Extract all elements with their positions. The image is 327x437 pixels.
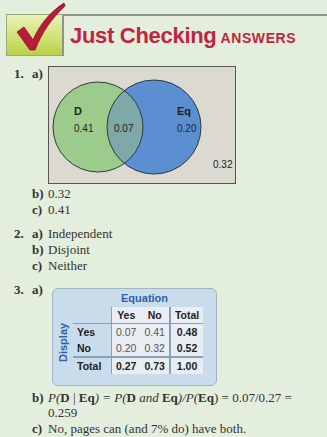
table-row-total: Total 0.27 0.73 1.00 [73,357,203,374]
formula-part: D [127,390,136,405]
question-3-number: 3. [14,282,24,298]
venn-set1-only: 0.41 [74,123,93,134]
formula-part: Eq [162,390,178,405]
question-3c-letter: c) [32,421,42,437]
table-row: No 0.20 0.32 0.52 [73,340,203,357]
question-3b-formula: P(D | Eq) = P(D and Eq)/P(Eq) = 0.07/0.2… [48,390,292,406]
question-2b-answer: Disjoint [48,242,90,258]
question-2-number: 2. [14,226,24,242]
table-cell-total: 0.73 [140,357,169,374]
contingency-table: Yes No Total Yes 0.07 0.41 0.48 No 0.20 … [73,307,203,374]
formula-part: ) = P( [95,390,127,405]
table-cell: 0.41 [140,324,169,341]
table-cell: 0.07 [112,324,141,341]
column-header: No [140,307,169,324]
venn-intersection: 0.07 [114,123,133,134]
table-cell: 0.32 [140,340,169,357]
formula-part: and [136,390,162,405]
formula-part: Eq [79,390,95,405]
question-1b-answer: 0.32 [48,186,71,202]
question-2c-letter: c) [32,258,42,274]
question-2a-letter: a) [32,226,43,242]
table-header-row: Yes No Total [73,307,203,324]
formula-part: Eq [198,390,214,405]
question-3b-result: 0.259 [48,405,77,421]
column-header: Total [170,307,203,324]
venn-set2-only: 0.20 [177,123,196,134]
table-cell-grand-total: 1.00 [170,357,203,374]
table-cell: 0.20 [112,340,141,357]
row-variable-label: Display [57,323,69,362]
table-cell-total: 0.52 [170,340,203,357]
column-header: Yes [112,307,141,324]
formula-part: | [70,390,79,405]
formula-part: ) = 0.07/0.27 = [214,390,292,405]
venn-outside: 0.32 [213,159,232,170]
section-header: Just CheckingANSWERS [0,0,327,62]
question-3c-answer: No, pages can (and 7% do) have both. [48,421,246,437]
row-header: Total [73,357,112,374]
venn-diagram: D 0.41 0.07 Eq 0.20 0.32 [48,66,236,184]
question-1a-letter: a) [32,66,43,82]
contingency-table-box: Equation Display Yes No Total Yes 0.07 0… [52,288,217,386]
row-header: No [73,340,112,357]
header-rule [62,14,327,16]
title-sub: ANSWERS [220,30,296,46]
venn-set2-label: Eq [177,105,191,117]
checkmark-icon [14,2,66,52]
row-header: Yes [73,324,112,341]
venn-set1-label: D [74,105,82,117]
page-title: Just CheckingANSWERS [70,23,296,49]
formula-part: )/P( [178,390,198,405]
question-2c-answer: Neither [48,258,87,274]
question-1c-letter: c) [32,202,42,218]
table-cell-total: 0.48 [170,324,203,341]
question-2b-letter: b) [32,242,44,258]
question-2a-answer: Independent [48,226,112,242]
question-1c-answer: 0.41 [48,202,71,218]
table-row: Yes 0.07 0.41 0.48 [73,324,203,341]
question-3b-letter: b) [32,390,44,406]
table-cell-total: 0.27 [112,357,141,374]
title-main: Just Checking [70,23,216,48]
question-1b-letter: b) [32,186,44,202]
column-variable-label: Equation [121,292,168,304]
table-corner [73,307,112,324]
question-1-number: 1. [14,66,24,82]
question-3a-letter: a) [32,282,43,298]
formula-part: P( [48,390,60,405]
formula-part: D [60,390,69,405]
